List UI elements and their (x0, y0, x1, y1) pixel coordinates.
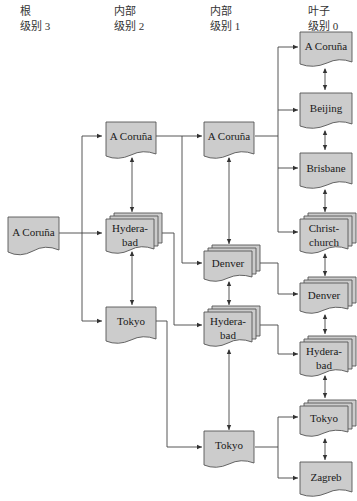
connectors (58, 47, 325, 478)
node-l2-hyderabad: Hydera- bad (106, 213, 162, 253)
node-label: Tokyo (117, 315, 145, 327)
node-l1-hyderabad: Hydera- bad (204, 306, 260, 346)
node-l0-tokyo: Tokyo (300, 400, 356, 436)
node-label: Hydera- (306, 345, 342, 357)
node-label: bad (122, 236, 138, 248)
node-label: A Coruña (305, 40, 348, 52)
node-label: Christ- (309, 222, 340, 234)
node-label: church (309, 236, 339, 248)
node-l0-hyderabad: Hydera- bad (300, 336, 356, 376)
node-l0-acoruna: A Coruña (300, 32, 352, 66)
node-label: Brisbane (306, 162, 345, 174)
node-label: bad (220, 329, 236, 341)
node-l1-denver: Denver (204, 245, 260, 281)
node-l0-christchurch: Christ- church (300, 213, 356, 253)
node-label: Denver (212, 257, 245, 269)
node-label: Hydera- (112, 222, 148, 234)
node-l1-acoruna: A Coruña (204, 122, 254, 158)
node-l0-zagreb: Zagreb (300, 462, 352, 496)
node-l1-tokyo: Tokyo (204, 431, 254, 467)
node-label: A Coruña (208, 130, 251, 142)
node-label: Denver (308, 289, 341, 301)
node-label: Tokyo (215, 439, 243, 451)
node-l0-beijing: Beijing (300, 93, 352, 128)
node-label: A Coruña (12, 226, 55, 238)
btree-diagram: A Coruña A Coruña Hydera- bad Tokyo A Co… (0, 0, 357, 501)
node-label: Beijing (310, 102, 343, 114)
node-label: bad (316, 359, 332, 371)
node-l2-acoruna: A Coruña (106, 122, 156, 158)
node-root-acoruna: A Coruña (8, 217, 59, 255)
node-l2-tokyo: Tokyo (106, 307, 156, 343)
node-label: A Coruña (110, 130, 153, 142)
node-l0-denver: Denver (300, 277, 356, 313)
node-label: Zagreb (310, 471, 342, 483)
node-label: Tokyo (310, 412, 338, 424)
node-l0-brisbane: Brisbane (300, 153, 352, 188)
node-label: Hydera- (210, 315, 246, 327)
